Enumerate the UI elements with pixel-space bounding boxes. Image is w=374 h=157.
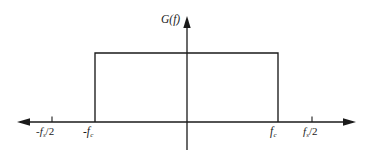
amplitude-axis-label: G(f) (161, 14, 180, 26)
amplitude-axis-arrowhead (183, 16, 190, 28)
over-two: /2 (309, 125, 318, 137)
spectrum-figure: G(f) -fs/2 -fc fc fs/2 (0, 0, 374, 157)
subscript-c: c (90, 131, 93, 139)
over-two: /2 (46, 125, 55, 137)
frequency-axis-right-arrowhead (343, 118, 356, 126)
tick-label-negative-cutoff-frequency: -fc (83, 126, 93, 139)
subscript-c: c (273, 131, 276, 139)
tick-label-positive-half-sampling-frequency: fs/2 (303, 126, 317, 139)
tick-label-positive-cutoff-frequency: fc (270, 126, 277, 139)
figure-canvas (0, 0, 374, 157)
frequency-axis-left-arrowhead (17, 118, 30, 126)
tick-label-negative-half-sampling-frequency: -fs/2 (36, 126, 54, 139)
